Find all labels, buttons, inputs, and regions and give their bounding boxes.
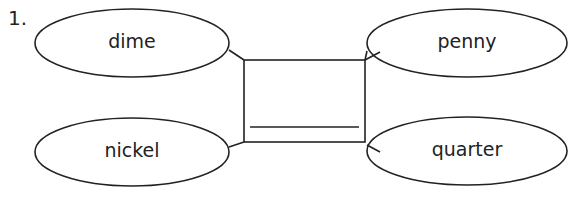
label-penny: penny [437,30,496,52]
connector-quarter [367,145,380,152]
label-quarter: quarter [432,138,503,160]
label-nickel: nickel [104,139,159,161]
connector-dime [229,50,244,60]
answer-field[interactable] [250,100,359,126]
label-dime: dime [108,30,156,52]
connector-nickel [229,142,244,147]
